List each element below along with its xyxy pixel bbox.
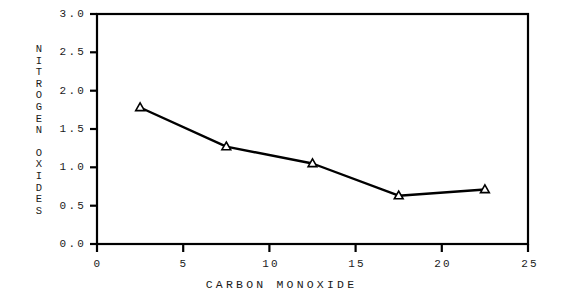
y-tick-label: 0.5 [50,200,86,211]
x-tick-label: 25 [521,259,539,270]
x-tick-label: 10 [262,259,280,270]
plot-frame [97,14,528,244]
y-tick-label: 2.0 [50,85,86,96]
y-tick-label: 2.5 [50,47,86,58]
chart-figure: 3.0 2.5 2.0 1.5 1.0 0.5 0.0 0 5 10 15 20… [0,0,563,303]
x-tick-label: 15 [348,259,366,270]
y-tick-label: 3.0 [50,9,86,20]
y-axis-title-char: I [30,171,48,183]
y-axis-title-char: E [30,194,48,206]
y-tick-label: 0.0 [50,239,86,250]
x-tick-label: 0 [94,259,103,270]
y-axis-title: NITROGEN OXIDES [30,44,48,217]
y-tick-label: 1.5 [50,124,86,135]
y-axis-title-char: G [30,102,48,114]
y-axis-title-word: OXIDES [30,148,48,218]
y-tick-label: 1.0 [50,162,86,173]
y-axis-title-word: NITROGEN [30,44,48,137]
y-axis-title-char: N [30,125,48,137]
x-axis-ticks [97,244,528,252]
y-axis-title-char: S [30,206,48,218]
x-tick-label: 20 [434,259,452,270]
x-axis-title: CARBON MONOXIDE [0,279,563,291]
x-tick-label: 5 [180,259,189,270]
y-axis-title-char: N [30,44,48,56]
